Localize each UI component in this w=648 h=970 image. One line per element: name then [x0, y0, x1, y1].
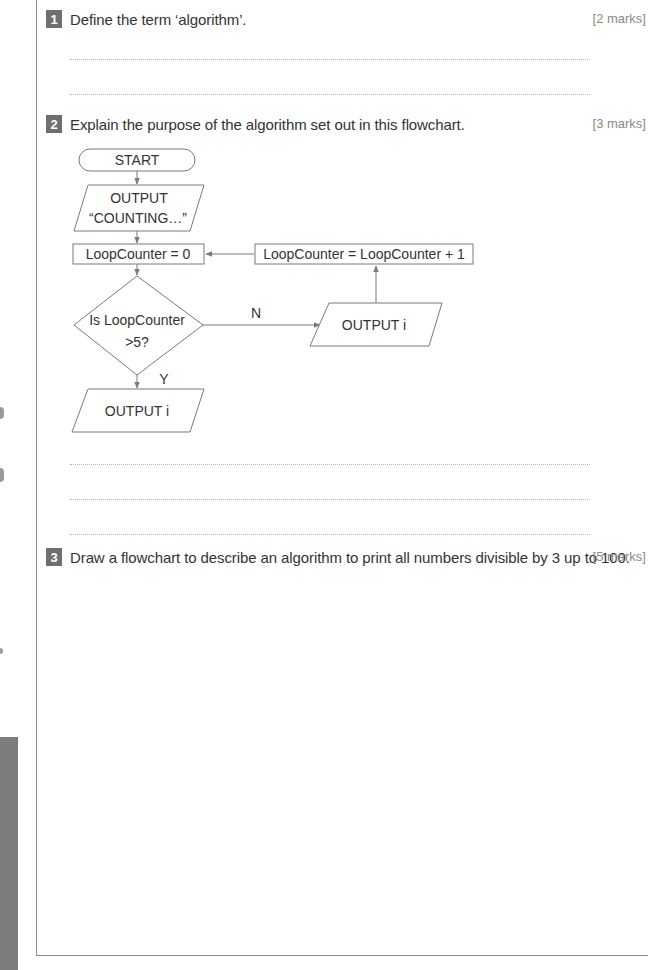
question-3: 3 Draw a flowchart to describe an algori… [46, 548, 630, 566]
decision-line2: >5? [125, 334, 149, 350]
margin-mark [0, 648, 3, 654]
decision-line1: Is LoopCounter [89, 312, 185, 328]
page-bottom-line [36, 955, 648, 956]
margin-tab-bar [0, 737, 18, 970]
start-label: START [115, 152, 160, 168]
answer-line[interactable] [70, 499, 590, 500]
increment-label: LoopCounter = LoopCounter + 1 [263, 246, 465, 262]
question-text: Draw a flowchart to describe an algorith… [70, 549, 630, 566]
no-branch-label: N [251, 305, 261, 321]
answer-line[interactable] [70, 534, 590, 535]
output-loop-label: OUTPUT i [342, 317, 406, 333]
output-counting-line1: OUTPUT [110, 190, 168, 206]
margin-mark [0, 468, 4, 482]
init-label: LoopCounter = 0 [86, 246, 191, 262]
flowchart: START OUTPUT “COUNTING…” LoopCounter = 0… [0, 0, 648, 440]
drawing-area[interactable] [46, 575, 646, 950]
marks-label: [5 marks] [593, 549, 646, 564]
output-counting-line2: “COUNTING…” [89, 210, 187, 226]
answer-line[interactable] [70, 464, 590, 465]
question-number: 3 [46, 548, 62, 566]
output-end-label: OUTPUT i [105, 403, 169, 419]
yes-branch-label: Y [159, 371, 169, 387]
